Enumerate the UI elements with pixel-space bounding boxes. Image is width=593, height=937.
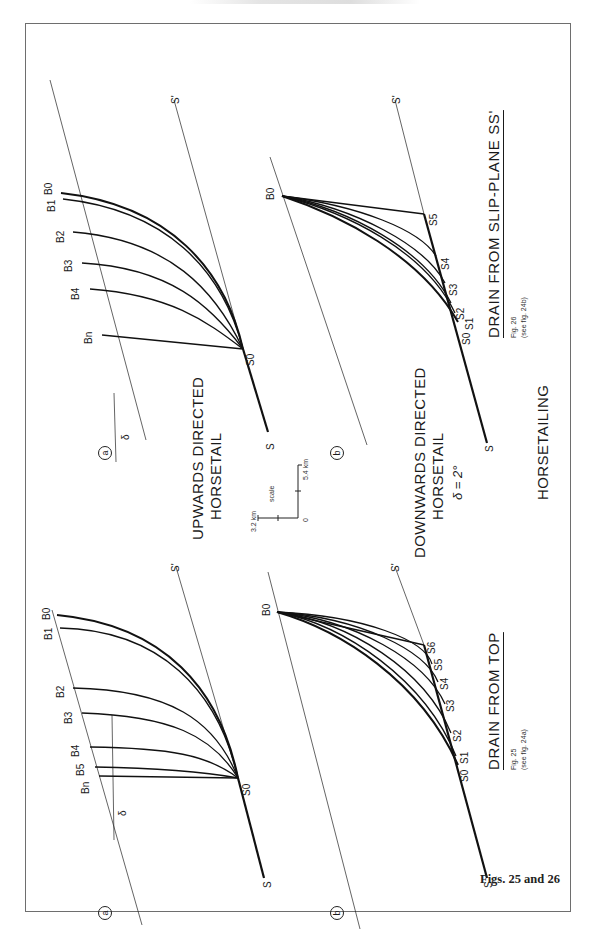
- fig26b-label-s1: S1: [465, 318, 475, 330]
- fig26a-label-s: S: [266, 443, 276, 450]
- fig26a-label-s0: S0: [246, 354, 256, 366]
- scale-origin-label: 0: [302, 518, 309, 522]
- fig26a-label-s-prime: S': [171, 95, 181, 104]
- fig25-number: Fig. 25: [510, 749, 517, 770]
- fig25-panel-a: [52, 567, 264, 925]
- fig25b-label-s0: S0: [460, 770, 470, 782]
- fig26a-label-b1: B1: [47, 200, 57, 212]
- fig25b-label-s-prime: S': [391, 563, 401, 572]
- fig26-number: Fig. 26: [510, 317, 517, 338]
- fig25a-label-s: S: [263, 881, 273, 888]
- fig26b-label-s0: S0: [462, 333, 472, 345]
- fig26b-label-b0: B0: [266, 188, 276, 200]
- fig25b-label-s3: S3: [446, 700, 456, 712]
- fig25b-label-b0: B0: [262, 604, 272, 616]
- fig26b-label-s3: S3: [449, 284, 459, 296]
- fig26a-delta-label: δ: [121, 434, 131, 440]
- fig25a-marker: a: [98, 906, 112, 920]
- fig26-see-ref: (see fig. 24b): [520, 297, 527, 338]
- fig26b-label-s5: S5: [429, 214, 439, 226]
- fig26a-marker: a: [98, 446, 112, 460]
- fig25b-marker: b: [330, 906, 344, 920]
- downwards-title-line2: HORSETAIL: [430, 432, 445, 520]
- fig25a-label-s0: S0: [242, 784, 252, 796]
- delta-value-label: δ = 2°: [451, 466, 464, 500]
- fig25b-label-s1: S1: [460, 752, 470, 764]
- horsetailing-title: HORSETAILING: [535, 385, 550, 500]
- fig26-title: DRAIN FROM SLIP-PLANE SS': [486, 110, 501, 338]
- fig25a-label-b4: B4: [71, 745, 81, 757]
- fig26a-label-b3: B3: [64, 260, 74, 272]
- downwards-title-line1: DOWNWARDS DIRECTED: [412, 367, 427, 558]
- fig25a-label-bn: Bn: [81, 782, 91, 794]
- fig25a-label-b0: B0: [42, 608, 52, 620]
- upwards-title-line1: UPWARDS DIRECTED: [190, 377, 205, 540]
- fig25a-label-s-prime: S': [171, 563, 181, 572]
- fig26a-label-b0: B0: [44, 183, 54, 195]
- fig25b-label-s6: S6: [427, 642, 437, 654]
- fig26b-label-s2: S2: [456, 308, 466, 320]
- fig25-see-ref: (see fig. 24a): [520, 729, 527, 770]
- scale-bar: [258, 465, 302, 521]
- fig26b-marker: b: [330, 446, 344, 460]
- fig25b-label-s5: S5: [434, 659, 444, 671]
- fig25a-delta-label: δ: [118, 810, 128, 816]
- fig25-panel-b: [268, 567, 487, 929]
- fig25a-label-b5: B5: [76, 764, 86, 776]
- fig25a-label-b1: B1: [44, 628, 54, 640]
- figure-caption: Figs. 25 and 26: [480, 872, 560, 887]
- scale-label: scale: [268, 486, 275, 502]
- fig25-title: DRAIN FROM TOP: [486, 632, 501, 770]
- upwards-title-line2: HORSETAIL: [208, 432, 223, 520]
- fig26b-label-s4: S4: [441, 258, 451, 270]
- fig26-panel-b: [270, 100, 487, 445]
- scale-vertical-label: 5.4 km: [302, 459, 309, 480]
- fig25a-label-b3: B3: [64, 712, 74, 724]
- fig25a-label-b2: B2: [56, 686, 66, 698]
- fig26a-label-b2: B2: [56, 231, 66, 243]
- fig26b-label-s-prime: S': [392, 95, 402, 104]
- fig26a-label-b4: B4: [71, 288, 81, 300]
- fig26-panel-a: [50, 80, 268, 462]
- fig26b-label-s: S: [485, 445, 495, 452]
- fig26a-label-bn: Bn: [84, 332, 94, 344]
- fig25b-label-s2: S2: [453, 730, 463, 742]
- fig25b-label-s4: S4: [440, 678, 450, 690]
- scale-horizontal-label: 3.2 km: [250, 511, 257, 532]
- horsetailing-diagram: [0, 0, 593, 937]
